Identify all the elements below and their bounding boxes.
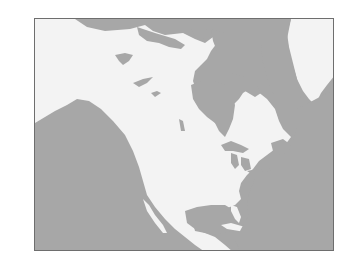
north-america-map [35,19,334,251]
map-frame [34,18,334,251]
